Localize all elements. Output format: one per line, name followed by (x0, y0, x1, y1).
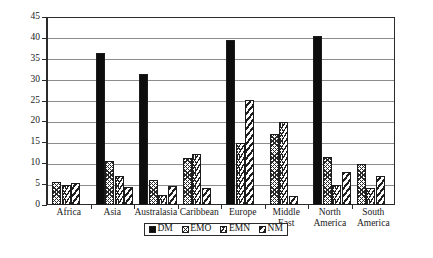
x-axis-tick-mark (265, 205, 266, 209)
y-axis-tick-mark (42, 142, 46, 143)
bar-emn-south-america (366, 188, 375, 205)
y-axis-tick-mark (42, 80, 46, 81)
x-axis-tick-mark (178, 205, 179, 209)
y-axis-tick-mark (42, 184, 46, 185)
bar-emn-north-america (332, 185, 341, 205)
bar-group (47, 17, 91, 205)
bar-group (134, 17, 178, 205)
legend-swatch-emo-icon (182, 226, 189, 233)
legend-item-nm: NM (259, 224, 283, 234)
bar-nm-africa (71, 183, 80, 205)
x-axis-tick-label: SouthAmerica (346, 207, 402, 229)
y-axis-tick-label: 15 (18, 137, 40, 147)
x-axis-tick-mark (134, 205, 135, 209)
bar-group (221, 17, 265, 205)
y-axis-tick-mark (42, 38, 46, 39)
y-axis-tick-mark (42, 121, 46, 122)
bar-nm-caribbean (202, 188, 211, 205)
legend-swatch-emn-icon (220, 226, 227, 233)
bar-nm-australasia (168, 186, 177, 205)
bar-emn-caribbean (192, 154, 201, 205)
y-axis-tick-label: 10 (18, 158, 40, 168)
bar-dm-europe (226, 40, 235, 205)
bar-emn-asia (115, 176, 124, 205)
y-axis-tick-label: 20 (18, 116, 40, 126)
bar-nm-south-america (376, 176, 385, 205)
bar-dm-asia (96, 53, 105, 205)
bar-emo-caribbean (183, 158, 192, 205)
y-axis-tick-label: 35 (18, 54, 40, 64)
legend-swatch-nm-icon (259, 226, 266, 233)
y-axis-tick-label: 40 (18, 33, 40, 43)
y-axis-tick-label: 5 (18, 179, 40, 189)
bar-emo-middle-east (270, 134, 279, 205)
bar-emn-europe (236, 143, 245, 205)
bar-emn-africa (62, 185, 71, 205)
bar-group (265, 17, 309, 205)
y-axis-tick-mark (42, 17, 46, 18)
legend-item-emn: EMN (220, 224, 250, 234)
bar-emn-australasia (158, 195, 167, 205)
y-axis-tick-label: 0 (18, 200, 40, 210)
legend-swatch-dm-icon (149, 226, 156, 233)
bar-emo-africa (52, 182, 61, 205)
bar-group (91, 17, 135, 205)
y-axis-tick-label: 45 (18, 12, 40, 22)
bars-layer (47, 17, 395, 205)
y-axis-tick-mark (42, 163, 46, 164)
y-axis-labels: 051015202530354045 (14, 0, 40, 258)
bar-nm-asia (124, 187, 133, 205)
bar-emn-middle-east (279, 122, 288, 205)
legend-label: DM (158, 224, 173, 234)
bar-nm-europe (245, 100, 254, 205)
x-axis-tick-mark (91, 205, 92, 209)
legend-label: NM (268, 224, 283, 234)
bar-emo-asia (105, 161, 114, 205)
bar-dm-australasia (139, 74, 148, 205)
x-axis-tick-mark (221, 205, 222, 209)
y-axis-tick-label: 25 (18, 96, 40, 106)
y-axis-tick-mark (42, 59, 46, 60)
bar-nm-north-america (342, 172, 351, 205)
bar-group (308, 17, 352, 205)
x-axis-tick-mark (308, 205, 309, 209)
legend-label: EMN (229, 224, 250, 234)
x-axis-tick-mark (352, 205, 353, 209)
bar-emo-north-america (323, 157, 332, 205)
chart-legend: DMEMOEMNNM (144, 223, 288, 236)
bar-group (352, 17, 396, 205)
y-axis-tick-mark (42, 205, 46, 206)
y-axis-tick-mark (42, 101, 46, 102)
legend-label: EMO (190, 224, 211, 234)
legend-item-emo: EMO (182, 224, 212, 234)
bar-nm-middle-east (289, 196, 298, 205)
bar-group (178, 17, 222, 205)
bar-dm-north-america (313, 36, 322, 205)
y-axis-tick-label: 30 (18, 75, 40, 85)
bar-chart: 051015202530354045 AfricaAsiaAustralasia… (0, 0, 433, 258)
bar-emo-south-america (357, 164, 366, 205)
bar-emo-australasia (149, 180, 158, 205)
legend-item-dm: DM (149, 224, 173, 234)
